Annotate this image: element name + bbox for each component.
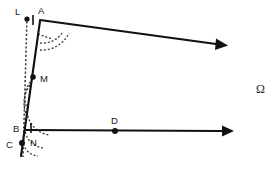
angle-arc-a-outer xyxy=(40,33,69,50)
point-label-M: M xyxy=(40,73,48,84)
point-dot-L xyxy=(24,16,29,21)
point-label-A: A xyxy=(38,5,45,16)
omega-symbol: Ω xyxy=(256,82,265,96)
point-dot-D xyxy=(112,128,118,134)
point-dot-M xyxy=(30,74,36,80)
ray-from-B xyxy=(26,130,223,131)
point-label-L: L xyxy=(15,6,20,17)
point-label-N: N xyxy=(30,137,37,148)
geometry-canvas: L A M B C D N Ω xyxy=(0,0,276,169)
arrow-head-upper-ray xyxy=(215,39,228,51)
point-dot-C xyxy=(19,140,25,146)
point-label-B: B xyxy=(13,123,19,134)
segment-line-AC xyxy=(21,21,40,156)
point-label-C: C xyxy=(6,139,13,150)
ray-from-A xyxy=(40,20,216,44)
angle-tick-a xyxy=(38,34,52,39)
point-label-D: D xyxy=(111,115,118,126)
arrow-head-lower-ray xyxy=(222,126,234,137)
